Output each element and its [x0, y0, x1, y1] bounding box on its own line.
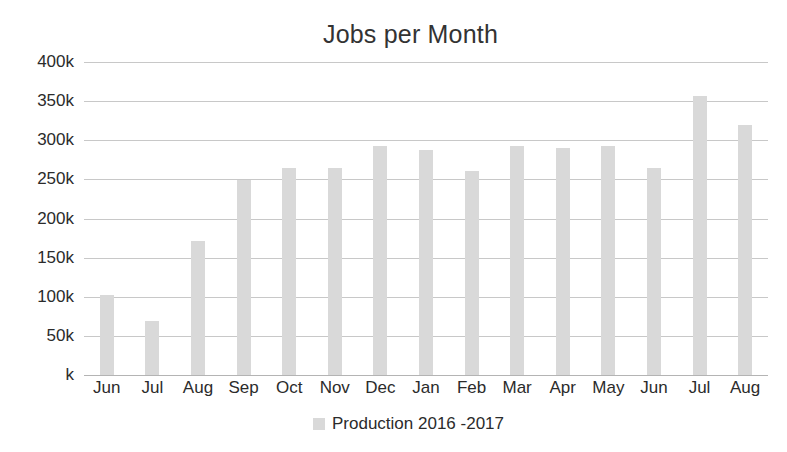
bar-slot [631, 62, 677, 375]
y-axis-tick-label: 300k [0, 130, 74, 150]
bar-slot [84, 62, 130, 375]
bar-slot [358, 62, 404, 375]
bar-slot [494, 62, 540, 375]
y-axis-tick-label: 200k [0, 209, 74, 229]
bar[interactable] [738, 125, 752, 375]
y-axis-tick-label: 50k [0, 326, 74, 346]
bar[interactable] [510, 146, 524, 375]
bar[interactable] [282, 168, 296, 375]
x-axis-tick-label: Oct [266, 378, 312, 408]
legend-swatch-icon [313, 418, 325, 430]
bar[interactable] [419, 150, 433, 375]
bar[interactable] [237, 180, 251, 375]
bar[interactable] [601, 146, 615, 375]
x-axis-tick-label: Apr [540, 378, 586, 408]
chart-title: Jobs per Month [0, 20, 787, 49]
legend-label: Production 2016 -2017 [332, 414, 504, 434]
x-axis-tick-label: Sep [221, 378, 267, 408]
x-axis-tick-label: Jun [631, 378, 677, 408]
x-axis-tick-label: Mar [494, 378, 540, 408]
bar-slot [266, 62, 312, 375]
bar[interactable] [693, 96, 707, 375]
bar-slot [722, 62, 768, 375]
y-axis-tick-label: 400k [0, 52, 74, 72]
x-axis-tick-label: Dec [358, 378, 404, 408]
bar-slot [403, 62, 449, 375]
bar[interactable] [556, 148, 570, 375]
x-axis-tick-label: Nov [312, 378, 358, 408]
x-axis-tick-label: May [586, 378, 632, 408]
bar-slot [130, 62, 176, 375]
chart-legend: Production 2016 -2017 [0, 414, 787, 434]
bar-series-production [84, 62, 768, 375]
bar[interactable] [100, 295, 114, 375]
bar-slot [540, 62, 586, 375]
y-axis-tick-label: 250k [0, 169, 74, 189]
bar-chart: Jobs per Month 400k350k300k250k200k150k1… [0, 0, 787, 452]
x-axis-labels: JunJulAugSepOctNovDecJanFebMarAprMayJunJ… [84, 378, 768, 408]
x-axis-tick-label: Jan [403, 378, 449, 408]
x-axis-tick-label: Feb [449, 378, 495, 408]
x-axis-tick-label: Jul [677, 378, 723, 408]
bar[interactable] [373, 146, 387, 375]
bar[interactable] [191, 241, 205, 375]
y-axis-tick-label: k [0, 365, 74, 385]
bar-slot [312, 62, 358, 375]
bar-slot [175, 62, 221, 375]
bar[interactable] [647, 168, 661, 375]
y-axis-tick-label: 350k [0, 91, 74, 111]
x-axis-tick-label: Jul [130, 378, 176, 408]
bar[interactable] [465, 171, 479, 375]
bar-slot [449, 62, 495, 375]
y-axis-tick-label: 150k [0, 248, 74, 268]
bar[interactable] [328, 168, 342, 375]
gridline [84, 375, 768, 376]
y-axis-tick-label: 100k [0, 287, 74, 307]
bar-slot [677, 62, 723, 375]
bar-slot [586, 62, 632, 375]
x-axis-tick-label: Aug [722, 378, 768, 408]
x-axis-tick-label: Jun [84, 378, 130, 408]
x-axis-tick-label: Aug [175, 378, 221, 408]
plot-area [84, 62, 768, 375]
bar[interactable] [145, 321, 159, 375]
bar-slot [221, 62, 267, 375]
y-axis-labels: 400k350k300k250k200k150k100k50kk [0, 62, 74, 375]
